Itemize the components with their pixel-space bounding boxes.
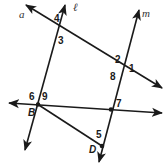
point-b [36, 102, 41, 107]
angle-label-1: 1 [129, 63, 135, 74]
line-m [99, 10, 139, 162]
angle-label-5: 5 [96, 129, 102, 140]
angle-label-4: 4 [54, 13, 60, 24]
angle-label-8: 8 [110, 71, 116, 82]
angle-label-3: 3 [58, 35, 64, 46]
angle-label-9: 9 [42, 91, 48, 102]
point-d [100, 144, 105, 149]
angle-label-2: 2 [115, 54, 121, 65]
segment-bd [38, 105, 102, 147]
point-intersection-m-transversal [109, 107, 114, 112]
label-line-a: a [19, 8, 25, 20]
geometry-diagram: a ℓ m 4 3 2 1 8 6 9 7 5 B D [0, 0, 164, 166]
label-line-l: ℓ [73, 1, 78, 13]
point-label-d: D [89, 144, 96, 155]
point-label-b: B [28, 107, 35, 118]
angle-label-7: 7 [116, 98, 122, 109]
label-line-m: m [142, 7, 150, 19]
line-l [25, 5, 65, 150]
angle-label-6: 6 [29, 91, 35, 102]
